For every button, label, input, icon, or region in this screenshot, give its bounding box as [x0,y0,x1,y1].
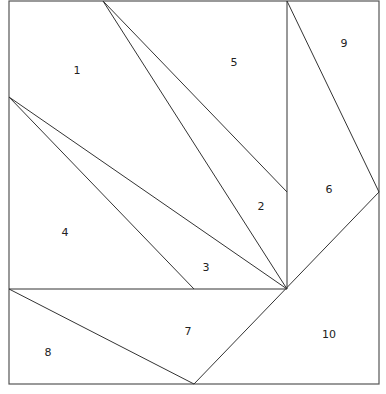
region-label-7: 7 [185,325,192,338]
region-label-9: 9 [341,37,348,50]
region-label-4: 4 [62,226,69,239]
region-labels: 12345678910 [45,37,348,359]
edges [9,1,379,384]
dissection-diagram: 12345678910 [0,0,386,394]
outer-frame [9,1,379,384]
region-label-3: 3 [203,261,210,274]
edge-line [9,97,287,289]
edge-line [103,1,287,289]
region-label-8: 8 [45,346,52,359]
edge-line [9,97,194,289]
region-label-10: 10 [322,328,336,341]
edge-line [9,289,194,384]
edge-line [103,1,287,192]
region-label-6: 6 [326,183,333,196]
edge-line [287,1,379,192]
region-label-2: 2 [258,200,265,213]
region-label-1: 1 [74,64,81,77]
region-label-5: 5 [231,56,238,69]
